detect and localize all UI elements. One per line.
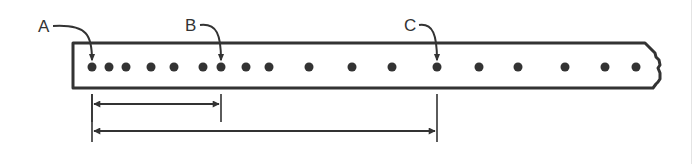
dimension-lines [92,94,437,142]
hole [217,63,226,72]
marker-a: A [38,17,92,60]
page-edge [691,0,692,164]
perforated-strip-diagram: ABC [0,0,696,164]
marker-label: A [38,17,50,36]
hole [561,63,570,72]
marker-label: B [185,16,196,35]
hole [514,63,523,72]
hole [601,63,610,72]
marker-b: B [185,16,221,60]
hole [147,63,156,72]
hole [199,63,208,72]
hole [388,63,397,72]
holes [88,63,641,72]
hole [105,63,114,72]
hole [122,63,131,72]
marker-c: C [404,16,437,60]
marker-label: C [404,16,416,35]
strip [73,43,660,88]
hole [242,63,251,72]
hole [88,63,97,72]
hole [475,63,484,72]
hole [305,63,314,72]
dimension-a-c [92,94,437,142]
hole [348,63,357,72]
hole [265,63,274,72]
dimension-a-b [92,94,221,122]
hole [170,63,179,72]
hole-markers: ABC [38,16,437,60]
strip-outline [73,43,660,88]
hole [433,63,442,72]
hole [632,63,641,72]
